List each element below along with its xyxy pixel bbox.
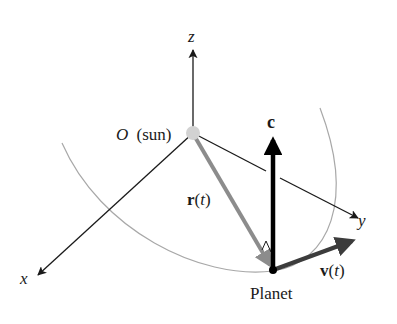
diagram-canvas: z x y O (sun) c r(t) v(t) Planet [0, 0, 397, 324]
position-vector-paren-close: ) [205, 190, 211, 209]
sun-dot [186, 126, 200, 140]
planet-label: Planet [250, 284, 293, 303]
z-axis-label: z [187, 27, 195, 46]
planet-motion-diagram: z x y O (sun) c r(t) v(t) Planet [0, 0, 397, 324]
y-axis [280, 178, 358, 218]
planet-dot [269, 266, 277, 274]
angular-momentum-label: c [267, 112, 275, 132]
origin-label: O (sun) [116, 125, 171, 144]
x-axis-label: x [19, 269, 28, 288]
x-axis [38, 133, 193, 275]
velocity-vector-paren-close: ) [339, 261, 345, 280]
origin-note: (sun) [137, 125, 172, 144]
velocity-vector-label: v(t) [320, 261, 345, 280]
position-vector-label: r(t) [187, 190, 211, 209]
y-axis-label: y [356, 211, 366, 230]
origin-symbol: O [116, 125, 128, 144]
